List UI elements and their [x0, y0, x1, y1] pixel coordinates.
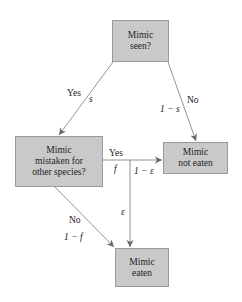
node-text: not eaten [178, 158, 213, 169]
label-seen-no: No [187, 95, 199, 105]
label-mistaken-yes-prob: f [114, 164, 117, 174]
node-text: Mimic [32, 145, 86, 156]
node-text: other species? [32, 167, 86, 178]
label-yes-eaten-prob: ε [121, 207, 125, 217]
node-text: Mimic [178, 147, 213, 158]
label-mistaken-yes: Yes [109, 148, 123, 158]
label-seen-yes: Yes [67, 88, 81, 98]
edge-seen-yes [59, 62, 113, 135]
node-mimic-eaten: Mimic eaten [115, 248, 169, 287]
node-text: Mimic [128, 30, 153, 41]
label-seen-yes-prob: s [89, 94, 93, 104]
label-mistaken-no: No [69, 215, 81, 225]
node-mimic-not-eaten: Mimic not eaten [163, 142, 228, 174]
node-text: mistaken for [32, 156, 86, 167]
node-text: eaten [129, 268, 154, 279]
node-mimic-seen: Mimic seen? [112, 20, 169, 62]
label-yes-not-eaten-prob: 1 − ε [134, 166, 154, 176]
label-seen-no-prob: 1 − s [160, 104, 180, 114]
node-mimic-mistaken: Mimic mistaken for other species? [15, 136, 103, 187]
node-text: seen? [128, 41, 153, 52]
node-text: Mimic [129, 257, 154, 268]
edge-mistaken-no [54, 186, 114, 247]
label-mistaken-no-prob: 1 − f [64, 232, 83, 242]
